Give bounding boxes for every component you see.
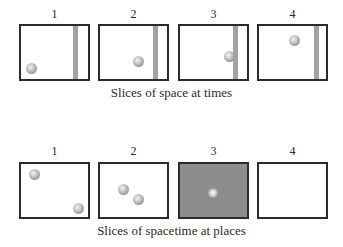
ball-icon — [289, 35, 300, 46]
ball-icon — [118, 184, 129, 195]
wall-bar — [314, 26, 319, 79]
bottom-panel-2 — [98, 162, 169, 219]
top-caption: Slices of space at times — [0, 86, 343, 100]
top-panel-1-label: 1 — [19, 8, 90, 20]
bottom-panel-1 — [19, 162, 90, 219]
ball-icon — [26, 63, 37, 74]
top-panel-3 — [178, 24, 249, 81]
top-panel-3-label: 3 — [178, 8, 249, 20]
ball-icon — [73, 203, 84, 214]
wall-bar — [73, 26, 78, 79]
top-panel-4 — [257, 24, 328, 81]
bottom-panel-4-empty — [257, 162, 328, 219]
ball-icon — [133, 194, 144, 205]
ball-icon — [133, 56, 144, 67]
top-panel-2 — [98, 24, 169, 81]
bottom-panel-3-label: 3 — [178, 145, 249, 157]
bottom-panel-3-shaded — [178, 162, 249, 219]
bottom-panel-1-label: 1 — [19, 145, 90, 157]
glowing-ball-icon — [208, 188, 218, 198]
top-panel-4-label: 4 — [257, 8, 328, 20]
ball-icon — [224, 51, 235, 62]
bottom-panel-4-label: 4 — [257, 145, 328, 157]
bottom-panel-2-label: 2 — [98, 145, 169, 157]
top-panel-2-label: 2 — [98, 8, 169, 20]
bottom-caption: Slices of spacetime at places — [0, 224, 343, 238]
ball-icon — [29, 169, 40, 180]
wall-bar — [153, 26, 158, 79]
top-panel-1 — [19, 24, 90, 81]
